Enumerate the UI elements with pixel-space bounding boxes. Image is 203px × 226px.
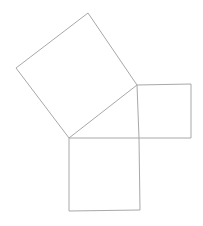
figure-canvas bbox=[0, 0, 203, 226]
pythagorean-theorem-diagram bbox=[0, 0, 203, 226]
horizontal-leg-square bbox=[69, 138, 140, 211]
hypotenuse-square bbox=[16, 13, 137, 138]
vertical-leg-square bbox=[137, 84, 191, 138]
